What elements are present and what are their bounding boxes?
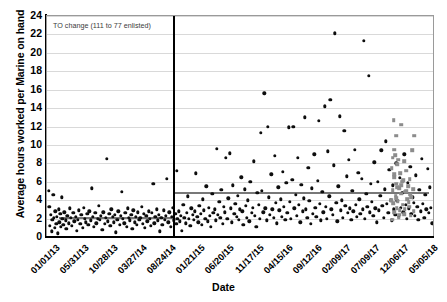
data-point: [148, 217, 151, 220]
data-point: [368, 210, 371, 213]
data-point: [193, 210, 196, 213]
data-point: [249, 180, 252, 183]
data-point: [205, 185, 208, 188]
data-point: [331, 213, 334, 216]
data-point: [146, 220, 149, 223]
data-point: [340, 198, 343, 201]
data-point: [199, 212, 202, 215]
data-point: [187, 217, 190, 220]
data-point: [400, 123, 404, 127]
data-point: [184, 221, 187, 224]
data-point: [185, 211, 188, 214]
data-point: [117, 210, 120, 213]
data-point: [271, 208, 274, 211]
data-point: [411, 187, 415, 191]
data-point: [314, 206, 317, 209]
x-tick-label: 09/12/16: [290, 242, 324, 276]
data-point: [376, 180, 379, 183]
data-point: [68, 207, 71, 210]
data-point: [48, 205, 51, 208]
data-point: [409, 165, 412, 168]
data-point: [384, 140, 387, 143]
data-point: [47, 189, 50, 192]
data-point: [363, 217, 366, 220]
data-point: [234, 202, 237, 205]
data-point: [391, 156, 395, 160]
data-point: [294, 193, 297, 196]
data-point: [257, 203, 260, 206]
data-point: [264, 207, 267, 210]
x-tick-label: 01/21/15: [174, 242, 208, 276]
data-point: [428, 186, 431, 189]
data-point: [239, 175, 242, 178]
data-point: [186, 195, 189, 198]
data-point: [263, 92, 266, 95]
data-point: [182, 203, 185, 206]
data-point: [162, 209, 165, 212]
data-point: [155, 208, 158, 211]
data-point: [198, 204, 201, 207]
data-point: [398, 172, 402, 176]
data-point: [212, 211, 215, 214]
data-point: [53, 226, 56, 229]
x-tick-label: 05/05/18: [406, 242, 440, 276]
data-point: [106, 220, 109, 223]
data-point: [390, 218, 394, 222]
data-point: [156, 219, 159, 222]
x-tick-label: 03/27/14: [115, 242, 149, 276]
data-point: [100, 228, 103, 231]
data-point: [359, 212, 362, 215]
data-point: [169, 225, 172, 228]
data-point: [431, 221, 434, 224]
x-tick-label: 10/28/13: [86, 242, 120, 276]
data-point: [343, 129, 346, 132]
data-point: [404, 169, 408, 173]
data-point: [109, 224, 112, 227]
data-point: [208, 214, 211, 217]
data-point: [395, 134, 399, 138]
data-point: [229, 207, 232, 210]
data-point: [158, 230, 161, 233]
data-point: [393, 210, 397, 214]
gridline: [47, 127, 433, 128]
data-point: [149, 224, 152, 227]
data-point: [415, 205, 418, 208]
data-point: [112, 221, 115, 224]
data-point: [255, 225, 258, 228]
data-point: [322, 210, 325, 213]
data-point: [347, 158, 350, 161]
data-point: [337, 185, 340, 188]
gridline: [47, 34, 433, 35]
data-point: [361, 208, 364, 211]
data-point: [332, 163, 335, 166]
data-point: [143, 226, 146, 229]
data-point: [412, 209, 416, 213]
data-point: [88, 210, 91, 213]
data-point: [295, 214, 298, 217]
x-tick-label: 06/20/15: [203, 242, 237, 276]
data-point: [51, 193, 54, 196]
data-point: [407, 205, 411, 209]
y-tick-label: 6: [22, 175, 42, 187]
data-point: [383, 187, 386, 190]
data-point: [94, 211, 97, 214]
data-point: [385, 202, 388, 205]
data-point: [304, 208, 307, 211]
data-point: [293, 207, 296, 210]
data-point: [402, 160, 406, 164]
data-point: [339, 209, 342, 212]
data-point: [371, 214, 374, 217]
data-point: [243, 187, 246, 190]
data-point: [318, 202, 321, 205]
data-point: [426, 167, 429, 170]
data-point: [283, 218, 286, 221]
data-point: [58, 221, 61, 224]
data-point: [85, 212, 88, 215]
data-point: [265, 219, 268, 222]
data-point: [200, 223, 203, 226]
data-point: [150, 211, 153, 214]
data-point: [261, 210, 264, 213]
data-point: [326, 150, 329, 153]
gridline: [47, 200, 433, 201]
to-change-vertical-line: [173, 16, 175, 237]
